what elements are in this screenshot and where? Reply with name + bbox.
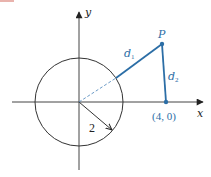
radius-arrow	[79, 102, 112, 130]
dashed-segment	[79, 78, 116, 102]
segment-d1	[116, 44, 162, 78]
d1-label: d1	[124, 47, 135, 61]
d2-sub: 2	[175, 76, 179, 84]
d1-sub: 1	[131, 53, 135, 61]
x-axis-label: x	[197, 107, 204, 120]
point-a-label: (4, 0)	[152, 110, 176, 123]
d1-main: d	[124, 47, 131, 60]
d2-main: d	[168, 70, 175, 83]
radius-label: 2	[89, 121, 95, 135]
point-a-dot	[164, 100, 168, 104]
segment-d2	[162, 44, 166, 102]
point-p-label: P	[157, 28, 166, 41]
d2-label: d2	[168, 70, 179, 84]
y-axis-label: y	[84, 6, 92, 19]
distance-diagram: y x P (4, 0) d1 d2 2	[0, 0, 211, 177]
point-p-dot	[160, 42, 164, 46]
cropped-text-fragment	[0, 0, 14, 2]
